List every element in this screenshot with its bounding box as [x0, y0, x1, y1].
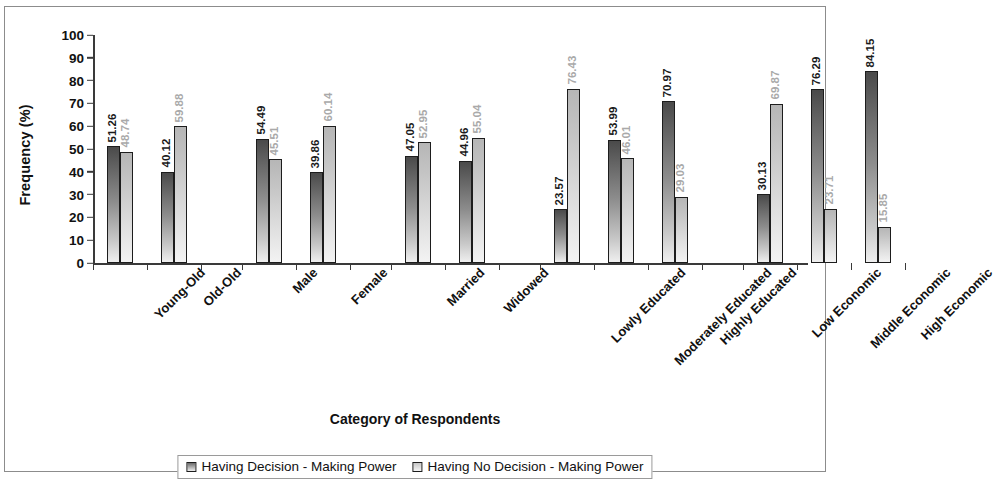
y-axis-tick-label: 70: [31, 96, 93, 111]
bar-value-label: 54.49: [256, 106, 268, 135]
y-axis-tick-label: 40: [31, 164, 93, 179]
x-axis-category-label: Lowly Educated: [608, 265, 689, 346]
legend-item-series1: Having Decision - Making Power: [186, 459, 396, 474]
bar: 23.57: [554, 209, 567, 263]
bar: 76.43: [567, 89, 580, 263]
bar-group-spacer: [499, 35, 540, 263]
bar-value-label: 29.03: [675, 164, 687, 193]
bar: 29.03: [675, 197, 688, 263]
x-axis-category-label: Male: [289, 265, 320, 296]
x-axis-category-labels: Young-OldOld-OldMaleFemaleMarriedWidowed…: [93, 265, 808, 385]
x-axis-tick-mark: [851, 263, 852, 270]
bar-value-label: 76.29: [811, 56, 823, 85]
bar: 40.12: [161, 172, 174, 263]
bar-group: 39.8660.14: [296, 35, 350, 263]
bar-group: 40.1259.88: [147, 35, 201, 263]
bar: 23.71: [824, 209, 837, 263]
bar-value-label: 40.12: [161, 139, 173, 168]
bar-value-label: 23.57: [554, 176, 566, 205]
bar-value-label: 48.74: [120, 119, 132, 148]
bar-group-spacer: [201, 35, 242, 263]
bar-value-label: 59.88: [174, 94, 186, 123]
x-axis-category-label: Low Economic: [809, 265, 884, 340]
y-axis-tick-label: 30: [31, 187, 93, 202]
bar: 54.49: [256, 139, 269, 263]
bar-group: 51.2648.74: [93, 35, 147, 263]
bar: 44.96: [459, 161, 472, 264]
bar: 15.85: [878, 227, 891, 263]
legend-label-series2: Having No Decision - Making Power: [427, 459, 643, 474]
bar: 69.87: [770, 104, 783, 263]
bar: 55.04: [472, 138, 485, 263]
bar-value-label: 23.71: [824, 176, 836, 205]
bar: 53.99: [608, 140, 621, 263]
bar-value-label: 44.96: [459, 128, 471, 157]
bar-group: 54.4945.51: [242, 35, 296, 263]
y-axis-tick-label: 20: [31, 210, 93, 225]
bar-value-label: 55.04: [472, 105, 484, 134]
bar-value-label: 60.14: [323, 93, 335, 122]
bar: 52.95: [418, 142, 431, 263]
bar-value-label: 84.15: [865, 38, 877, 67]
legend-label-series1: Having Decision - Making Power: [201, 459, 396, 474]
x-axis-category-label: Old-Old: [200, 265, 244, 309]
chart-figure: Frequency (%) 1009080706050403020100 51.…: [4, 6, 826, 472]
x-axis-category-label: Widowed: [501, 265, 552, 316]
bar-group: 76.2923.71: [797, 35, 851, 263]
legend-swatch-icon: [412, 462, 422, 472]
bar-value-label: 39.86: [310, 139, 322, 168]
bar-group-spacer: [350, 35, 391, 263]
y-axis-tick-label: 60: [31, 119, 93, 134]
bar-group-spacer: [702, 35, 743, 263]
y-axis-tick-label: 100: [31, 28, 93, 43]
bar-group: 53.9946.01: [594, 35, 648, 263]
bar-value-label: 51.26: [107, 113, 119, 142]
chart-legend: Having Decision - Making Power Having No…: [177, 455, 652, 479]
bar-group: 47.0552.95: [391, 35, 445, 263]
x-axis-tick-mark: [905, 263, 906, 270]
x-axis-title: Category of Respondents: [5, 411, 825, 427]
bar-value-label: 47.05: [405, 123, 417, 152]
bar-group: 30.1369.87: [743, 35, 797, 263]
bar-value-label: 52.95: [418, 110, 430, 139]
bar: 30.13: [757, 194, 770, 263]
bar-group: 44.9655.04: [445, 35, 499, 263]
x-axis-category-label: Married: [444, 265, 488, 309]
legend-item-series2: Having No Decision - Making Power: [412, 459, 643, 474]
y-axis-tick-label: 0: [31, 256, 93, 271]
bar-value-label: 46.01: [621, 125, 633, 154]
bar-value-label: 45.51: [269, 126, 281, 155]
legend-swatch-icon: [186, 462, 196, 472]
bar: 48.74: [120, 152, 133, 263]
y-axis-tick-label: 90: [31, 50, 93, 65]
x-axis-category-label: Young-Old: [151, 265, 208, 322]
bar: 51.26: [107, 146, 120, 263]
bar-group: 84.1515.85: [851, 35, 905, 263]
y-axis-tick-label: 50: [31, 142, 93, 157]
bar-value-label: 76.43: [567, 56, 579, 85]
bar: 84.15: [865, 71, 878, 263]
bar-value-label: 15.85: [878, 194, 890, 223]
bar-group: 23.5776.43: [540, 35, 594, 263]
bar: 45.51: [269, 159, 282, 263]
y-axis-tick-label: 10: [31, 233, 93, 248]
bar: 39.86: [310, 172, 323, 263]
x-axis-category-label: Moderately Educated: [671, 265, 774, 368]
bar-value-label: 70.97: [662, 68, 674, 97]
bar-value-label: 30.13: [757, 162, 769, 191]
bar-slots: 51.2648.7440.1259.8854.4945.5139.8660.14…: [93, 35, 808, 263]
bar-value-label: 69.87: [770, 71, 782, 100]
bar: 59.88: [174, 126, 187, 263]
y-axis-tick-label: 80: [31, 73, 93, 88]
bar-value-label: 53.99: [608, 107, 620, 136]
bar-group: 70.9729.03: [648, 35, 702, 263]
bar: 60.14: [323, 126, 336, 263]
x-axis-category-label: Female: [348, 265, 390, 307]
bar: 47.05: [405, 156, 418, 263]
bar: 46.01: [621, 158, 634, 263]
plot-area: 1009080706050403020100 51.2648.7440.1259…: [93, 35, 808, 263]
